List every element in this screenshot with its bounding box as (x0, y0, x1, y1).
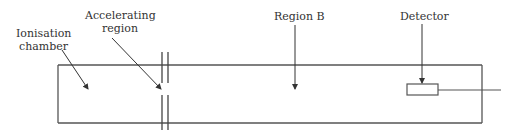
ionisation-label-1: Ionisation (16, 27, 71, 40)
detector (407, 84, 501, 95)
spectrometer-tube (58, 65, 482, 123)
accelerating-plates (162, 52, 168, 130)
detector-label: Detector (400, 10, 449, 23)
ionisation-label-2: chamber (19, 40, 69, 53)
mass-spectrometer-diagram: Ionisation chamber Accelerating region R… (0, 0, 513, 137)
accelerating-label-1: Accelerating (84, 9, 156, 22)
accelerating-label-2: region (102, 22, 138, 35)
region-b-label: Region B (274, 10, 325, 23)
accelerating-arrow (112, 38, 161, 89)
ionisation-arrow (62, 50, 88, 89)
